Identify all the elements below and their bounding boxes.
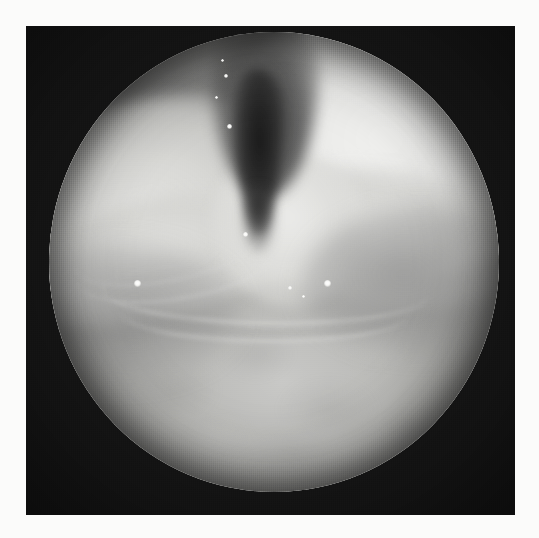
endoscope-field xyxy=(49,32,499,492)
optic-edge-falloff xyxy=(49,32,499,492)
image-canvas xyxy=(0,0,539,538)
photographic-plate xyxy=(26,26,515,515)
